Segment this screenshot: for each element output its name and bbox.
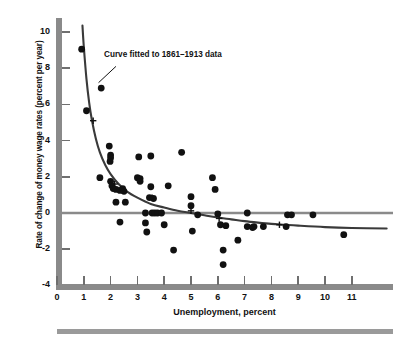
- data-point-marker: [121, 188, 128, 195]
- bottom-rule: [57, 329, 393, 334]
- data-point-marker: [214, 211, 221, 218]
- data-point-marker: [98, 85, 105, 92]
- data-point-marker: [220, 261, 227, 268]
- data-point-marker: [117, 219, 124, 226]
- data-point-marker: [235, 237, 242, 244]
- data-point-marker: [194, 211, 201, 218]
- data-point-marker: [142, 210, 149, 217]
- data-point-marker: [107, 158, 114, 165]
- data-point-marker: [283, 223, 290, 230]
- data-point-marker: [188, 193, 195, 200]
- data-point-marker: [188, 202, 195, 209]
- data-point-marker: [113, 199, 120, 206]
- data-point-marker: [143, 229, 150, 236]
- data-point-marker: [189, 228, 196, 235]
- data-point-marker: [147, 183, 154, 190]
- data-point-marker: [78, 46, 85, 53]
- data-point-marker: [251, 223, 258, 230]
- data-point-marker: [142, 220, 149, 227]
- data-point-marker: [220, 247, 227, 254]
- data-point-marker: [288, 211, 295, 218]
- data-point-marker: [178, 149, 185, 156]
- data-point-marker: [122, 199, 129, 206]
- data-point-marker: [150, 195, 157, 202]
- data-point-marker: [340, 231, 347, 238]
- data-point-marker: [96, 174, 103, 181]
- data-point-marker: [165, 182, 172, 189]
- data-point-marker: [170, 247, 177, 254]
- data-point-marker: [147, 153, 154, 160]
- data-point-marker: [158, 210, 165, 217]
- data-point-marker: [209, 174, 216, 181]
- data-point-marker: [137, 178, 144, 185]
- phillips-curve-figure: Rate of change of money wage rates (perc…: [0, 0, 404, 342]
- data-point-marker: [212, 186, 219, 193]
- data-point-marker: [83, 107, 90, 114]
- curve-cross-marker: [276, 222, 282, 228]
- data-point-marker: [310, 211, 317, 218]
- annotation-leader-line: [99, 66, 116, 82]
- curve-annotation-label: Curve fitted to 1861–1913 data: [104, 50, 222, 59]
- data-point-marker: [135, 153, 142, 160]
- data-point-marker: [161, 221, 168, 228]
- data-point-marker: [260, 223, 267, 230]
- data-point-marker: [106, 143, 113, 150]
- data-point-marker: [222, 222, 229, 229]
- data-point-marker: [244, 210, 251, 217]
